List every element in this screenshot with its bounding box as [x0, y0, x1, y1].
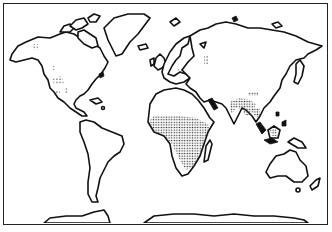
north-america — [10, 14, 108, 116]
world-map — [3, 3, 328, 225]
southeast-asia-islands — [256, 112, 286, 144]
europe — [150, 18, 190, 84]
south-america — [80, 120, 124, 202]
world-map-svg — [4, 4, 326, 223]
greenland — [104, 14, 150, 56]
antarctica — [44, 210, 308, 223]
australia — [266, 138, 320, 192]
